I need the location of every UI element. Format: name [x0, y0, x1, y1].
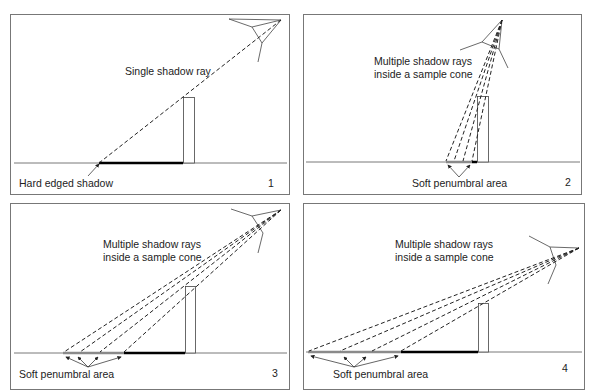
panel-number: 3 — [272, 367, 278, 379]
panel-border — [304, 204, 585, 390]
shadow-diagram: Single shadow ray Hard edged shadow 1 Mu… — [0, 0, 595, 392]
caption-bottom: Soft penumbral area — [333, 368, 428, 380]
occluder-pole — [184, 98, 195, 164]
caption-bottom: Soft penumbral area — [19, 368, 114, 380]
caption-top-line-2: inside a sample cone — [374, 68, 473, 80]
caption-top: Single shadow ray — [125, 65, 212, 77]
panel-number: 4 — [562, 362, 568, 374]
panel-3: Multiple shadow rays inside a sample con… — [11, 204, 290, 390]
occluder-pole — [186, 287, 196, 354]
panel-4: Multiple shadow rays inside a sample con… — [304, 204, 585, 390]
caption-top-line-1: Multiple shadow rays — [374, 55, 472, 67]
caption-top-line-2: inside a sample cone — [395, 251, 494, 263]
occluder-pole — [479, 304, 489, 353]
caption-top-line-2: inside a sample cone — [103, 251, 202, 263]
panel-border — [304, 15, 582, 195]
panel-number: 1 — [268, 177, 274, 189]
panel-number: 2 — [565, 176, 571, 188]
panel-1: Single shadow ray Hard edged shadow 1 — [11, 15, 290, 195]
caption-top-line-1: Multiple shadow rays — [395, 238, 493, 250]
panel-border — [11, 15, 290, 195]
caption-top-line-1: Multiple shadow rays — [103, 238, 201, 250]
panel-2: Multiple shadow rays inside a sample con… — [304, 15, 582, 195]
caption-bottom: Hard edged shadow — [19, 177, 113, 189]
caption-bottom: Soft penumbral area — [412, 177, 507, 189]
